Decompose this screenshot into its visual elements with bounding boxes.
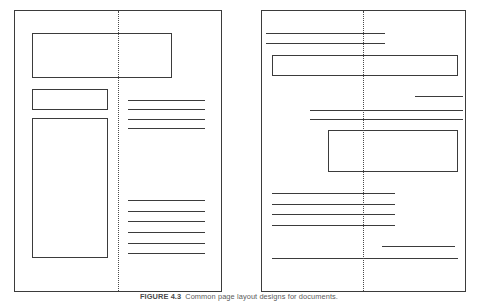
- page-right-box-banner-wide: [272, 55, 458, 76]
- page-left-rule-right-8: [128, 232, 205, 233]
- page-left-rule-right-9: [128, 243, 205, 244]
- page-right-rule-mid-2: [310, 119, 463, 120]
- page-left-rule-right-4: [128, 128, 205, 129]
- figure-caption-label: FIGURE 4.3: [140, 292, 181, 301]
- figure-canvas: FIGURE 4.3Common page layout designs for…: [0, 0, 478, 301]
- page-right-rule-short-right: [415, 96, 463, 97]
- page-right-rule-mid-1: [310, 110, 463, 111]
- page-right-rule-body-1: [272, 193, 395, 194]
- page-left-box-header-wide: [32, 33, 172, 78]
- page-left-box-tall-column: [32, 118, 108, 258]
- page-right-rule-body-2: [272, 204, 395, 205]
- figure-caption-text: Common page layout designs for documents…: [185, 292, 338, 301]
- page-left-rule-right-10: [128, 253, 205, 254]
- page-left-rule-right-7: [128, 221, 205, 222]
- figure-caption: FIGURE 4.3Common page layout designs for…: [0, 292, 478, 301]
- page-left-rule-right-2: [128, 109, 205, 110]
- page-left-rule-right-6: [128, 211, 205, 212]
- page-right-rule-top-2: [266, 43, 385, 44]
- page-left-rule-right-5: [128, 200, 205, 201]
- page-right-fold-line: [363, 11, 364, 291]
- page-right-box-inset: [328, 130, 458, 172]
- page-right-rule-foot-short: [382, 246, 455, 247]
- page-left-rule-right-1: [128, 100, 205, 101]
- page-left-fold-line: [118, 11, 119, 291]
- page-left-rule-right-3: [128, 119, 205, 120]
- page-right-rule-body-3: [272, 214, 395, 215]
- page-right-rule-foot-long: [272, 258, 458, 259]
- page-right-rule-body-4: [272, 225, 395, 226]
- page-right-rule-top-1: [266, 33, 385, 34]
- page-left-box-subhead: [32, 89, 108, 110]
